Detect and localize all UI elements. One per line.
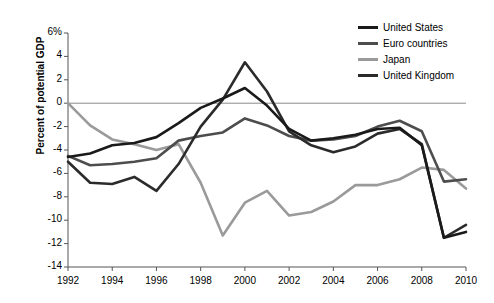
y-axis-tick-label: -6 <box>20 166 62 177</box>
x-axis-tick-label: 2004 <box>308 275 358 286</box>
series-line-united-kingdom <box>68 62 466 238</box>
chart-container: Percent of potential GDP United StatesEu… <box>0 0 494 303</box>
legend-item: United States <box>358 20 454 34</box>
legend-item: United Kingdom <box>358 68 454 82</box>
x-axis-tick-label: 2006 <box>353 275 403 286</box>
legend-swatch-icon <box>358 42 378 45</box>
x-axis-tick-label: 2010 <box>441 275 491 286</box>
chart-legend: United StatesEuro countriesJapanUnited K… <box>358 20 454 84</box>
legend-swatch-icon <box>358 74 378 77</box>
y-axis-tick-label: 2 <box>20 73 62 84</box>
x-axis-tick-label: 2000 <box>220 275 270 286</box>
x-axis-tick-label: 1996 <box>131 275 181 286</box>
legend-item: Japan <box>358 52 454 66</box>
x-axis-tick-label: 2002 <box>264 275 314 286</box>
x-axis-tick-label: 2008 <box>397 275 447 286</box>
x-axis-tick-label: 1992 <box>43 275 93 286</box>
legend-swatch-icon <box>358 58 378 61</box>
x-axis-tick-label: 1994 <box>87 275 137 286</box>
legend-item-label: United States <box>383 22 443 33</box>
y-axis-tick-label: -8 <box>20 190 62 201</box>
y-axis-tick-label: -10 <box>20 213 62 224</box>
legend-item-label: Japan <box>383 54 410 65</box>
y-axis-tick-label: 0 <box>20 96 62 107</box>
series-line-euro-countries <box>68 118 466 181</box>
y-axis-tick-label: 6% <box>20 26 62 37</box>
y-axis-tick-label: -14 <box>20 260 62 271</box>
y-axis-tick-label: -4 <box>20 143 62 154</box>
y-axis-tick-label: -2 <box>20 120 62 131</box>
legend-swatch-icon <box>358 26 378 29</box>
y-axis-tick-label: 4 <box>20 49 62 60</box>
legend-item-label: United Kingdom <box>383 70 454 81</box>
legend-item-label: Euro countries <box>383 38 447 49</box>
y-axis-tick-label: -12 <box>20 237 62 248</box>
x-axis-tick-label: 1998 <box>176 275 226 286</box>
legend-item: Euro countries <box>358 36 454 50</box>
